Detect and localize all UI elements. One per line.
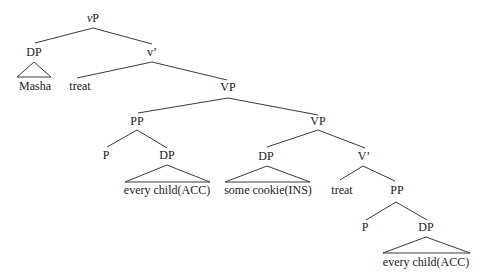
branch-vbar-treat xyxy=(77,62,152,78)
leaf-treat-V: treat xyxy=(331,183,353,197)
node-P-high: P xyxy=(103,148,110,162)
branch-VP-PP xyxy=(138,98,228,113)
branch-PP-DP-low xyxy=(396,202,427,220)
leaf-Masha: Masha xyxy=(19,79,52,93)
branch-PP-P xyxy=(107,130,137,147)
leaf-every-child-low: every child(ACC) xyxy=(383,255,469,269)
branch-Vbar-PP xyxy=(363,166,395,181)
branch-vbar-VP xyxy=(152,62,227,80)
branch-vP-DP xyxy=(35,28,93,43)
triangle-DP-high xyxy=(125,165,210,182)
branch-VP-DP xyxy=(267,130,318,147)
branch-Vbar-treat xyxy=(340,166,363,180)
node-PP-low: PP xyxy=(390,183,404,197)
node-vbar: v’ xyxy=(147,45,157,59)
node-DP-low: DP xyxy=(418,220,434,234)
node-DP-high: DP xyxy=(159,148,175,162)
syntax-tree: vP DP Masha v’ treat VP PP P DP every ch… xyxy=(0,0,484,280)
leaf-some-cookie: some cookie(INS) xyxy=(224,183,312,197)
node-PP-high: PP xyxy=(130,114,144,128)
node-VP-top: VP xyxy=(220,80,236,94)
triangle-DP-low xyxy=(383,237,470,253)
branch-VP-VP xyxy=(228,98,318,115)
node-DP-ins: DP xyxy=(258,149,274,163)
node-P-low: P xyxy=(362,220,369,234)
branch-PP-P-low xyxy=(366,202,396,220)
leaf-every-child-high: every child(ACC) xyxy=(124,183,210,197)
leaf-treat-v: treat xyxy=(69,79,91,93)
triangle-DP-subject xyxy=(17,62,51,77)
branch-PP-DP xyxy=(137,130,167,148)
node-VP-low: VP xyxy=(310,114,326,128)
triangle-DP-ins xyxy=(225,166,310,182)
node-DP-subject: DP xyxy=(26,45,42,59)
node-Vbar: V’ xyxy=(358,149,371,163)
node-vP: vP xyxy=(87,11,99,25)
branch-VP-Vbar xyxy=(318,130,365,148)
branch-vP-vbar xyxy=(93,28,152,44)
